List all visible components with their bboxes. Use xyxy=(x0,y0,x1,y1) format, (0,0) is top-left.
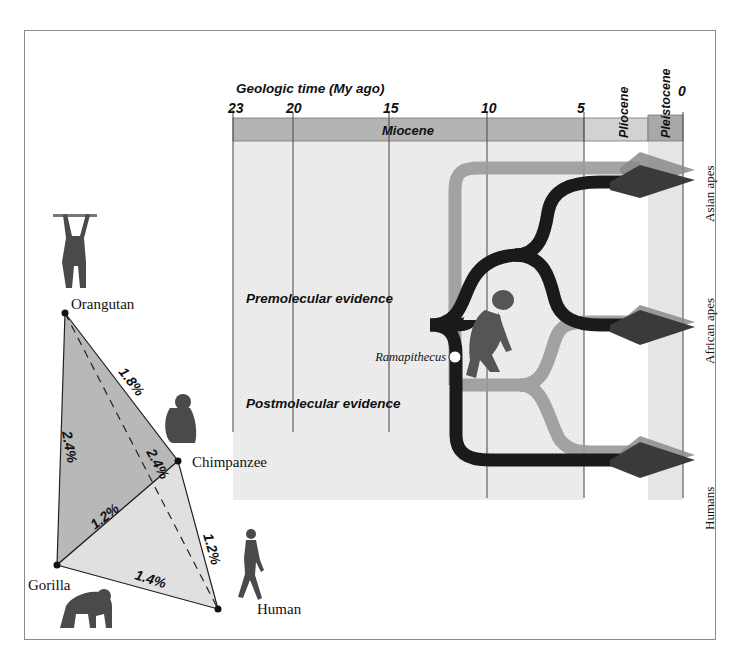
node-orangutan xyxy=(62,310,69,317)
premolecular-label: Premolecular evidence xyxy=(246,291,394,306)
epoch-bar xyxy=(233,115,683,141)
tick-15: 15 xyxy=(383,100,399,116)
node-chimpanzee xyxy=(175,458,182,465)
orangutan-icon xyxy=(53,214,97,288)
evolution-diagram: Geologic time (My ago) 23 20 15 10 5 0 M… xyxy=(0,0,744,668)
label-gorilla: Gorilla xyxy=(28,577,71,593)
outcome-asian-apes: Asian apes xyxy=(702,165,717,222)
tick-10: 10 xyxy=(481,100,497,116)
outcome-humans: Humans xyxy=(702,487,717,530)
tick-20: 20 xyxy=(285,100,302,116)
pliocene-band xyxy=(584,118,648,141)
ramapithecus-marker xyxy=(449,351,461,363)
tick-23: 23 xyxy=(227,100,244,116)
chimpanzee-icon xyxy=(165,394,196,443)
tick-5: 5 xyxy=(577,100,585,116)
node-gorilla xyxy=(54,562,61,569)
epoch-pliocene: Pliocene xyxy=(617,87,631,138)
axis-title: Geologic time (My ago) xyxy=(236,81,385,96)
node-human xyxy=(215,606,222,613)
label-chimpanzee: Chimpanzee xyxy=(192,454,267,470)
outcome-african-apes: African apes xyxy=(702,298,717,364)
epoch-pleistocene: Pleistocene xyxy=(659,68,673,138)
label-orangutan: Orangutan xyxy=(71,296,135,312)
gorilla-icon xyxy=(60,589,112,628)
tick-0: 0 xyxy=(678,83,686,99)
postmolecular-label: Postmolecular evidence xyxy=(246,396,401,411)
epoch-miocene: Miocene xyxy=(382,123,434,138)
ramapithecus-label: Ramapithecus xyxy=(374,350,446,364)
human-icon xyxy=(238,529,264,600)
label-human: Human xyxy=(257,601,302,617)
